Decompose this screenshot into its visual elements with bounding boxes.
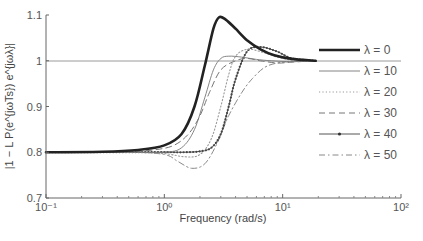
series-marker [278, 51, 280, 53]
series-marker [244, 54, 246, 56]
series-marker [272, 49, 274, 51]
series-marker [234, 81, 236, 83]
series-marker [275, 50, 277, 52]
series-marker [223, 124, 225, 126]
series-marker [266, 47, 268, 49]
chart: 0.70.80.911.1 10⁻¹10⁰10¹10² Frequency (r… [0, 0, 423, 241]
series-marker [210, 146, 212, 148]
series-marker [186, 151, 188, 153]
series-marker [225, 115, 227, 117]
series-marker [239, 66, 241, 68]
series-marker [241, 60, 243, 62]
legend-label: λ = 50 [364, 148, 397, 162]
series-marker [235, 78, 237, 80]
series-marker [176, 151, 178, 153]
axes: 0.70.80.911.1 10⁻¹10⁰10¹10² [27, 9, 410, 213]
series-marker [245, 51, 247, 53]
legend-label: λ = 40 [364, 127, 397, 141]
series-marker [233, 84, 235, 86]
series-marker [269, 48, 271, 50]
series-marker [205, 149, 207, 151]
series-marker [182, 151, 184, 153]
legend-item: λ = 10 [319, 64, 397, 78]
y-tick-label: 1 [36, 55, 42, 67]
series-marker [240, 63, 242, 65]
series-marker [238, 69, 240, 71]
legend-marker [338, 132, 341, 135]
series-marker [226, 112, 228, 114]
series-layer [45, 17, 316, 169]
series-marker [228, 103, 230, 105]
series-marker [231, 90, 233, 92]
legend-item: λ = 20 [319, 85, 397, 99]
series-marker [263, 46, 265, 48]
series-marker [227, 109, 229, 111]
y-tick-label: 1.1 [27, 9, 42, 21]
series-line-lambda-30 [46, 59, 316, 153]
series-marker [230, 96, 232, 98]
x-tick-label: 10⁰ [156, 201, 173, 213]
series-marker [283, 54, 285, 56]
series-marker [217, 139, 219, 141]
series-marker [222, 127, 224, 129]
y-tick-label: 0.8 [27, 146, 42, 158]
legend-item: λ = 40 [319, 127, 397, 141]
legend-item: λ = 50 [319, 148, 397, 162]
series-marker [195, 151, 197, 153]
series-marker [198, 150, 200, 152]
legend-label: λ = 10 [364, 64, 397, 78]
legend-label: λ = 30 [364, 106, 397, 120]
y-tick-label: 0.9 [27, 101, 42, 113]
series-marker [223, 121, 225, 123]
series-marker [215, 142, 217, 144]
x-ticks: 10⁻¹10⁰10¹10² [35, 194, 409, 213]
y-axis-label: |1 − L P(e^{jωTs}) e^{jωλ}| [3, 43, 15, 169]
x-tick-label: 10² [393, 201, 409, 213]
series-marker [218, 136, 220, 138]
x-tick-label: 10⁻¹ [35, 201, 57, 213]
legend-label: λ = 0 [364, 43, 391, 57]
series-marker [281, 53, 283, 55]
series-marker [224, 118, 226, 120]
series-marker [236, 75, 238, 77]
series-marker [192, 151, 194, 153]
series-line-lambda-10 [46, 56, 316, 152]
series-marker [232, 87, 234, 89]
legend-label: λ = 20 [364, 85, 397, 99]
plot-area [45, 17, 401, 169]
series-marker [221, 130, 223, 132]
series-line-lambda-20 [46, 49, 316, 157]
series-marker [229, 100, 231, 102]
legend-item: λ = 0 [319, 43, 391, 57]
series-marker [237, 72, 239, 74]
series-marker [189, 151, 191, 153]
series-marker [213, 144, 215, 146]
series-marker [208, 148, 210, 150]
series-marker [219, 133, 221, 135]
series-marker [230, 93, 232, 95]
series-marker [227, 106, 229, 108]
x-axis-label: Frequency (rad/s) [180, 212, 267, 224]
legend-item: λ = 30 [319, 106, 397, 120]
series-marker [179, 151, 181, 153]
x-tick-label: 10¹ [275, 201, 291, 213]
series-line-lambda-0 [46, 17, 316, 152]
